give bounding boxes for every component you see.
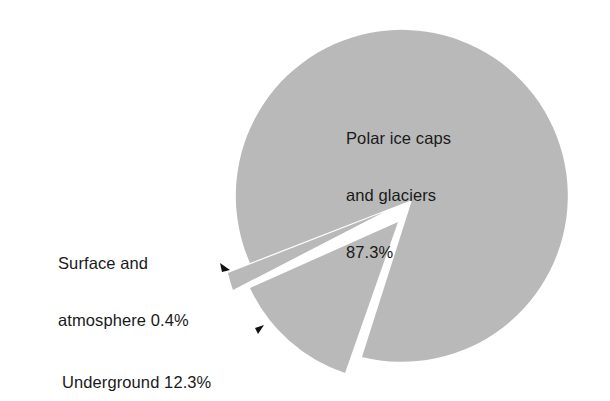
label-polar: Polar ice caps and glaciers 87.3% bbox=[346, 91, 451, 281]
label-polar-line1: Polar ice caps bbox=[346, 129, 451, 148]
label-surface: Surface and atmosphere 0.4% bbox=[58, 216, 189, 349]
label-underground-line1: Underground 12.3% bbox=[62, 373, 211, 392]
label-underground: Underground 12.3% bbox=[62, 335, 211, 401]
label-surface-line2: atmosphere 0.4% bbox=[58, 311, 189, 330]
surface-pointer-icon bbox=[220, 263, 230, 272]
label-polar-line2: and glaciers bbox=[346, 186, 451, 205]
underground-pointer-icon bbox=[255, 325, 264, 334]
label-surface-line1: Surface and bbox=[58, 254, 189, 273]
label-polar-value: 87.3% bbox=[346, 243, 451, 262]
